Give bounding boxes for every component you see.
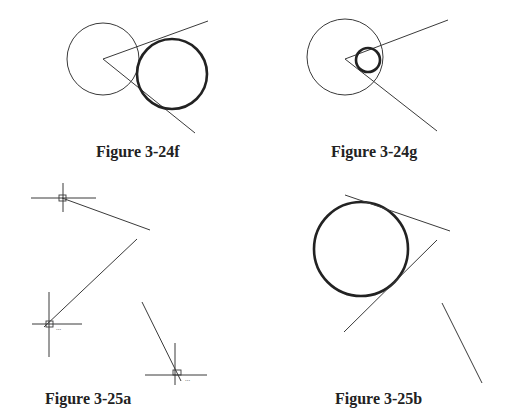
figure-caption-3-25a: Figure 3-25a <box>45 390 131 408</box>
figure-caption-3-24f: Figure 3-24f <box>96 143 180 161</box>
figure-3-25a-drawing: ... ... <box>31 183 207 385</box>
reference-circle <box>307 19 383 95</box>
crosshair-cursor-icon: ... <box>32 292 82 357</box>
upper-tangent-line <box>345 195 450 231</box>
figure-3-24g-drawing <box>307 19 448 131</box>
figures-canvas: ... ... <box>0 0 508 420</box>
figure-caption-3-24g: Figure 3-24g <box>331 143 417 161</box>
crosshair-cursor-icon <box>31 183 96 212</box>
upper-tangent-line <box>345 20 448 59</box>
crosshair-cursor-icon: ... <box>145 343 207 385</box>
line-segment-2 <box>44 239 137 327</box>
lower-tangent-line <box>345 59 437 131</box>
line-segment-1 <box>62 198 150 230</box>
lower-tangent-line <box>344 240 437 332</box>
tangent-circle <box>137 39 207 109</box>
figure-3-25b-drawing <box>314 195 482 383</box>
tangent-circle <box>356 48 380 72</box>
svg-text:...: ... <box>56 324 62 332</box>
separate-line <box>442 303 482 383</box>
figure-3-24f-drawing <box>67 21 208 133</box>
lower-tangent-line <box>103 59 195 133</box>
figure-caption-3-25b: Figure 3-25b <box>335 390 422 408</box>
svg-text:...: ... <box>185 375 191 383</box>
tangent-circle <box>314 202 408 296</box>
